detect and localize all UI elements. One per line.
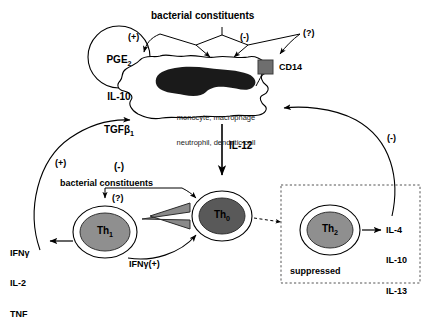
th0-label: Th0: [202, 209, 242, 223]
ifng-feedback-arrow: [128, 235, 196, 259]
th2-to-apc-negative-arrow: [284, 107, 395, 216]
bacterial-constituents-title: bacterial constituents: [151, 10, 254, 21]
th0-to-th1-block-arrow: [142, 203, 190, 229]
th1-sign-unknown: (?): [112, 193, 124, 203]
suppressor-line-3: TGFβ1: [96, 124, 142, 138]
il12-label: IL-12: [229, 140, 252, 151]
sign-negative-top: (-): [240, 32, 249, 42]
th1-cytokine-1: IL-2: [10, 278, 30, 288]
ifng-positive-label: IFNγ(+): [129, 259, 160, 269]
th2-cytokine-list: IL-4 IL-10 IL-13: [386, 205, 407, 316]
th2-cytokine-2: IL-13: [386, 286, 407, 296]
apc-cell-label: monocyte, macrophage neutrophil, dendrit…: [150, 97, 282, 164]
th2-label: Th2: [310, 223, 350, 237]
left-positive-label: (+): [55, 158, 66, 168]
th1-cytokine-2: TNF: [10, 309, 30, 319]
th1-bacterial-constituents-label: bacterial constituents: [60, 178, 153, 188]
right-negative-label: (-): [387, 133, 396, 143]
th2-cytokine-0: IL-4: [386, 225, 407, 235]
suppressor-line-1: PGE2: [96, 54, 142, 68]
suppressor-circle-text: PGE2 IL-10 TGFβ1 (-): [96, 32, 142, 194]
cd14-receptor: [258, 60, 273, 74]
th2-cytokine-1: IL-10: [386, 255, 407, 265]
th0-to-th2-dashed-arrow: [254, 218, 281, 222]
apc-cell-line-1: monocyte, macrophage: [150, 114, 282, 122]
th1-cytokine-list: IFNγ IL-2 TNF: [10, 228, 30, 321]
cd14-label: CD14: [279, 62, 302, 72]
th1-label: Th1: [85, 225, 125, 239]
apc-cell-line-2: neutrophil, dendritic cell: [150, 139, 282, 147]
suppressor-line-2: IL-10: [96, 91, 142, 102]
bacterial-branch-lines: [144, 27, 300, 57]
suppressor-line-4: (-): [96, 161, 142, 172]
th1-cytokine-0: IFNγ: [10, 248, 30, 258]
suppressed-label: suppressed: [290, 266, 341, 276]
sign-unknown-top: (?): [303, 28, 315, 38]
